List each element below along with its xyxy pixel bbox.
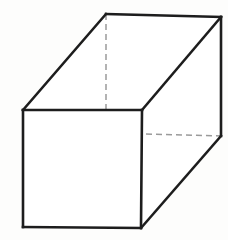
cuboid-figure xyxy=(0,0,228,240)
front-right-edge xyxy=(141,110,142,228)
figure-canvas xyxy=(0,0,228,240)
face-front xyxy=(23,110,142,228)
front-bottom-edge xyxy=(23,227,141,228)
